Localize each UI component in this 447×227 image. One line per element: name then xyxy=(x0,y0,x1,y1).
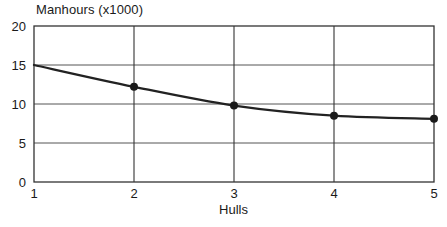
data-point-marker-3 xyxy=(230,102,238,110)
plot-area xyxy=(0,0,447,227)
chart-container: Manhours (x1000) 20 15 10 5 0 1 2 3 4 5 … xyxy=(0,0,447,227)
data-point-marker-5 xyxy=(430,115,438,123)
data-point-marker-2 xyxy=(130,83,138,91)
data-point-marker-4 xyxy=(330,112,338,120)
